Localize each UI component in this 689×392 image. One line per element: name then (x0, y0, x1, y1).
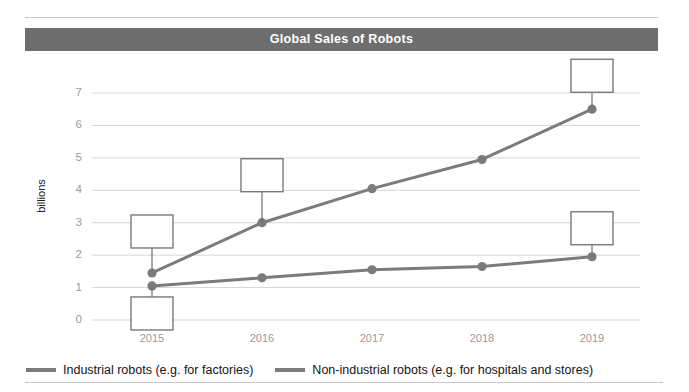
series-layer (147, 105, 596, 291)
y-tick-label: 3 (62, 217, 82, 229)
x-tick-label: 2017 (342, 333, 402, 344)
data-point-marker (367, 184, 376, 193)
x-tick-label: 2016 (232, 333, 292, 344)
legend-label-nonindustrial: Non-industrial robots (e.g. for hospital… (312, 364, 593, 377)
callout-answer-box[interactable] (241, 159, 283, 192)
callout-answer-box[interactable] (131, 297, 173, 330)
y-tick-label: 2 (62, 249, 82, 261)
legend-items: Industrial robots (e.g. for factories) N… (26, 364, 593, 377)
callout-layer (131, 59, 613, 330)
gridlines (92, 93, 640, 320)
y-tick-label: 6 (62, 119, 82, 131)
callout-answer-box[interactable] (571, 59, 613, 92)
legend-swatch-icon-industrial (26, 368, 56, 372)
data-point-marker (367, 265, 376, 274)
data-point-marker (477, 262, 486, 271)
y-axis-label: billions (35, 146, 47, 246)
legend-swatch-icon-nonindustrial (275, 368, 305, 372)
data-point-marker (477, 155, 486, 164)
legend-item-nonindustrial: Non-industrial robots (e.g. for hospital… (275, 364, 593, 377)
legend-label-industrial: Industrial robots (e.g. for factories) (63, 364, 253, 377)
callout-answer-box[interactable] (131, 215, 173, 248)
y-tick-label: 4 (62, 184, 82, 196)
chart-canvas (0, 0, 689, 360)
y-tick-label: 0 (62, 314, 82, 326)
callout-answer-box[interactable] (571, 212, 613, 245)
chart-figure: Global Sales of Robots billions 01234567… (0, 0, 689, 392)
chart-legend: Industrial robots (e.g. for factories) N… (0, 360, 689, 392)
bottom-divider (25, 382, 663, 383)
legend-item-industrial: Industrial robots (e.g. for factories) (26, 364, 253, 377)
x-tick-label: 2015 (122, 333, 182, 344)
data-point-marker (257, 273, 266, 282)
plot-area: billions 01234567 20152016201720182019 (0, 0, 689, 360)
y-tick-label: 7 (62, 87, 82, 99)
x-tick-label: 2019 (562, 333, 622, 344)
y-tick-label: 5 (62, 152, 82, 164)
x-tick-label: 2018 (452, 333, 512, 344)
y-tick-label: 1 (62, 282, 82, 294)
